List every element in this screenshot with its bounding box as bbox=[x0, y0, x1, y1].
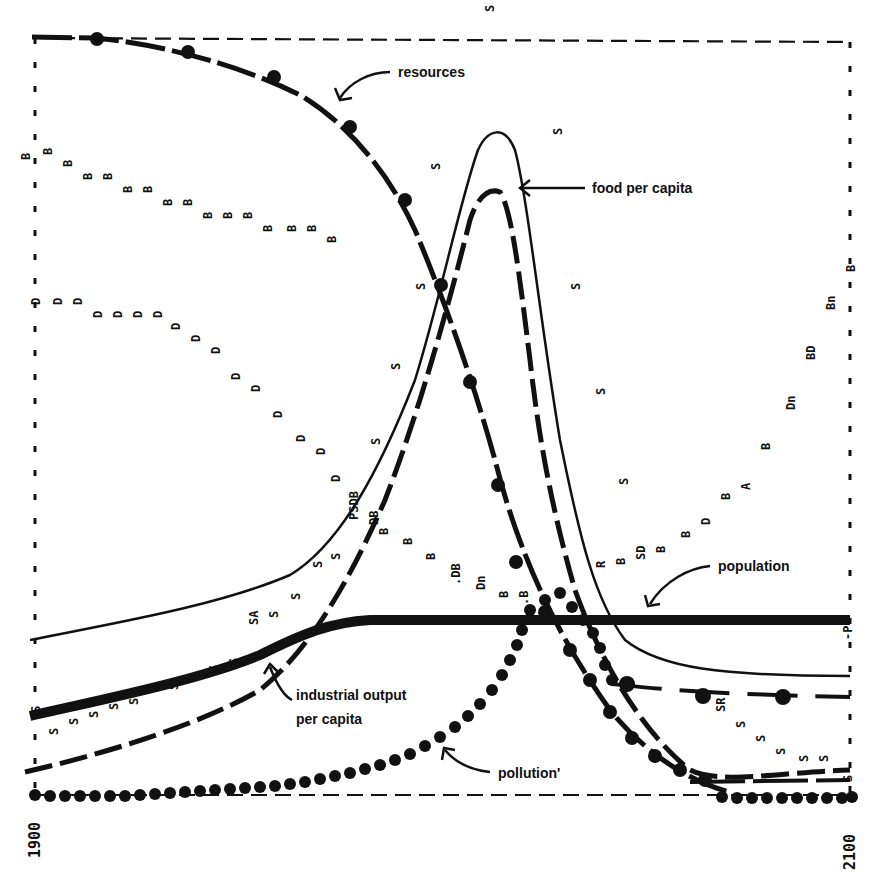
industrial-output-label-line1: industrial output bbox=[296, 687, 407, 703]
svg-text:S: S bbox=[87, 711, 101, 718]
svg-text:B: B bbox=[141, 186, 155, 193]
industrial-tail-line bbox=[690, 780, 850, 782]
svg-text:Bn: Bn bbox=[824, 296, 838, 310]
svg-text:D: D bbox=[151, 311, 165, 318]
svg-text:B: B bbox=[181, 199, 195, 206]
world-model-chart: B B B B B B B B B B B B B B B B B B B .D… bbox=[0, 0, 875, 890]
svg-text:Dn: Dn bbox=[784, 396, 798, 410]
svg-text:B: B bbox=[19, 153, 33, 160]
svg-text:S: S bbox=[369, 438, 383, 445]
svg-text:D: D bbox=[51, 298, 65, 305]
series-b-markers: B B B B B B B B B B B B B B B B B B B .D… bbox=[19, 148, 858, 605]
svg-text:B: B bbox=[679, 531, 693, 538]
svg-text:S: S bbox=[754, 735, 768, 742]
svg-text:.B: .B bbox=[517, 591, 531, 605]
svg-text:B: B bbox=[121, 186, 135, 193]
pollution-arrow bbox=[445, 750, 490, 772]
plot-frame bbox=[35, 38, 850, 795]
svg-text:S: S bbox=[107, 703, 121, 710]
svg-text:R: R bbox=[594, 560, 608, 568]
svg-text:S: S bbox=[429, 163, 443, 170]
svg-text:S: S bbox=[594, 388, 608, 395]
svg-text:S: S bbox=[47, 728, 61, 735]
svg-text:S: S bbox=[734, 721, 748, 728]
x-axis-start-label: 1900 bbox=[26, 822, 44, 858]
svg-text:D: D bbox=[699, 518, 713, 525]
svg-text:D: D bbox=[189, 335, 203, 342]
svg-text:D: D bbox=[209, 347, 223, 354]
svg-text:B: B bbox=[377, 528, 391, 535]
food-per-capita-label: food per capita bbox=[592, 180, 693, 196]
annotation-arrows bbox=[264, 72, 710, 772]
svg-text:BD: BD bbox=[804, 346, 818, 360]
resources-arrow bbox=[340, 72, 390, 98]
svg-text:B: B bbox=[654, 546, 668, 553]
svg-text:B: B bbox=[61, 160, 75, 167]
svg-text:SR: SR bbox=[714, 697, 728, 712]
svg-text:D: D bbox=[271, 411, 285, 418]
svg-text:B: B bbox=[101, 173, 115, 180]
svg-text:D: D bbox=[29, 298, 43, 305]
svg-text:B: B bbox=[719, 493, 733, 500]
food-per-capita-line bbox=[30, 132, 850, 676]
svg-text:A: A bbox=[739, 482, 753, 490]
svg-text:B: B bbox=[81, 173, 95, 180]
svg-text:D: D bbox=[91, 311, 105, 318]
svg-text:SD: SD bbox=[634, 546, 648, 560]
svg-text:D: D bbox=[71, 298, 85, 305]
svg-text:B: B bbox=[325, 236, 339, 243]
svg-text:B: B bbox=[161, 199, 175, 206]
svg-text:D: D bbox=[329, 475, 343, 482]
pollution-tail-line bbox=[612, 684, 850, 697]
svg-text:SA: SA bbox=[247, 610, 261, 625]
svg-text:S: S bbox=[817, 755, 831, 762]
svg-text:B: B bbox=[401, 538, 415, 545]
svg-text:D: D bbox=[111, 311, 125, 318]
svg-text:S: S bbox=[551, 128, 565, 135]
svg-text:D: D bbox=[169, 323, 183, 330]
x-axis-end-label: 2100 bbox=[841, 834, 859, 870]
svg-text:S: S bbox=[797, 755, 811, 762]
svg-text:D: D bbox=[249, 385, 263, 392]
svg-text:B: B bbox=[261, 225, 275, 232]
svg-text:D: D bbox=[229, 373, 243, 380]
svg-text:Dn: Dn bbox=[474, 576, 488, 590]
svg-text:B: B bbox=[759, 443, 773, 450]
svg-text:B: B bbox=[497, 591, 511, 598]
svg-text:S: S bbox=[483, 5, 497, 12]
svg-text:B: B bbox=[241, 212, 255, 219]
svg-text:D: D bbox=[314, 448, 328, 455]
svg-text:B: B bbox=[201, 212, 215, 219]
svg-text:S: S bbox=[127, 698, 141, 705]
industrial-output-label-line2: per capita bbox=[296, 711, 362, 727]
svg-text:B: B bbox=[41, 148, 55, 155]
svg-text:S: S bbox=[329, 553, 343, 560]
svg-text:D: D bbox=[294, 435, 308, 442]
svg-text:B: B bbox=[614, 558, 628, 565]
population-arrow bbox=[650, 566, 710, 604]
svg-text:.DB: .DB bbox=[449, 563, 463, 585]
svg-text:B: B bbox=[424, 553, 438, 560]
svg-text:B: B bbox=[285, 225, 299, 232]
svg-text:S: S bbox=[67, 718, 81, 725]
svg-text:B: B bbox=[844, 265, 858, 272]
resources-dots bbox=[90, 32, 712, 787]
resources-label: resources bbox=[398, 64, 465, 80]
svg-text:S: S bbox=[389, 363, 403, 370]
svg-text:S: S bbox=[569, 283, 583, 290]
svg-text:S: S bbox=[289, 593, 303, 600]
series-d-markers: D D D D D D D D D D D D D D D D PSDB DB bbox=[29, 298, 381, 525]
svg-text:S: S bbox=[414, 283, 428, 290]
series-s-markers: -S S S S S S S S S S SA S S S S S S S S … bbox=[29, 5, 855, 782]
svg-text:B: B bbox=[305, 225, 319, 232]
svg-text:-P: -P bbox=[841, 626, 855, 640]
svg-text:S: S bbox=[774, 748, 788, 755]
frame-top bbox=[35, 38, 850, 42]
svg-text:D: D bbox=[131, 311, 145, 318]
svg-text:S: S bbox=[311, 561, 325, 568]
svg-text:S: S bbox=[617, 478, 631, 485]
svg-text:S: S bbox=[267, 611, 281, 618]
population-label: population bbox=[718, 558, 790, 574]
pollution-label: pollution' bbox=[498, 765, 560, 781]
svg-text:B: B bbox=[221, 212, 235, 219]
